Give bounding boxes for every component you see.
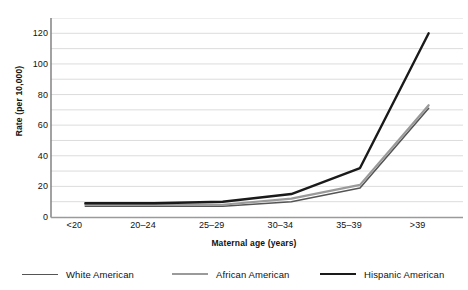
legend-label: African American: [216, 269, 289, 280]
chart-legend: White AmericanAfrican AmericanHispanic A…: [0, 262, 468, 286]
series-line: [85, 33, 428, 203]
x-axis-tick-labels: <2020–2425–2930–3435–39>39: [40, 220, 468, 238]
x-axis-title: Maternal age (years): [40, 238, 468, 248]
legend-line-swatch: [22, 274, 58, 275]
y-axis-tick: 40: [8, 151, 48, 161]
series-line: [85, 105, 428, 205]
x-axis-tick: 25–29: [199, 220, 225, 230]
y-axis-tick: 120: [8, 28, 48, 38]
x-axis-tick: 35–39: [336, 220, 362, 230]
x-axis-tick: >39: [410, 220, 426, 230]
plot-area: [51, 18, 463, 217]
y-axis-tick: 20: [8, 181, 48, 191]
x-axis-tick: 20–24: [130, 220, 156, 230]
legend-line-swatch: [320, 273, 356, 275]
y-axis-tick: 80: [8, 90, 48, 100]
legend-item[interactable]: White American: [22, 269, 134, 280]
y-axis-tick: 60: [8, 120, 48, 130]
series-line: [85, 108, 428, 206]
legend-label: Hispanic American: [364, 269, 444, 280]
legend-item[interactable]: Hispanic American: [320, 269, 444, 280]
gridlines: [51, 18, 463, 202]
x-axis-tick: <20: [67, 220, 83, 230]
y-axis-tick: 100: [8, 59, 48, 69]
line-chart: Rate (per 10,000) 020406080100120 <2020–…: [0, 0, 468, 290]
legend-line-swatch: [172, 273, 208, 275]
series-lines: [85, 33, 428, 206]
legend-item[interactable]: African American: [172, 269, 289, 280]
x-axis-tick: 30–34: [268, 220, 294, 230]
legend-label: White American: [66, 269, 134, 280]
